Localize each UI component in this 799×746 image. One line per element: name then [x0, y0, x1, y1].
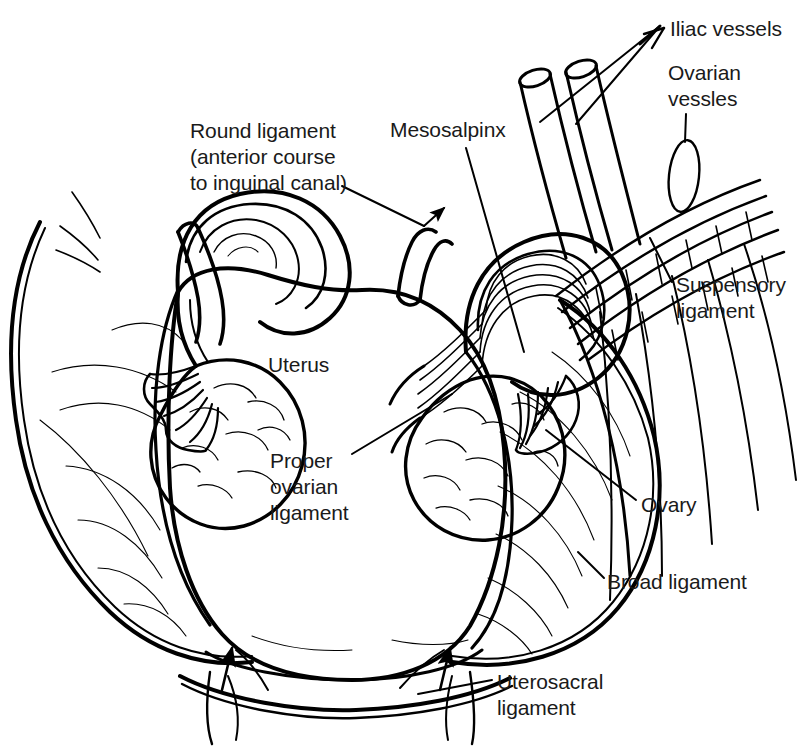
label-ovary: Ovary: [641, 492, 697, 518]
right-ovary: [406, 376, 565, 540]
left-fallopian-tube: [56, 191, 350, 451]
leader-proper-ovarian: [352, 394, 452, 454]
label-broad-ligament: Broad ligament: [607, 569, 747, 595]
leader-ovary: [546, 430, 636, 500]
leader-round: [342, 186, 424, 226]
label-ovarian-vessels: Ovarian vessles: [668, 60, 741, 112]
label-round-ligament: Round ligament (anterior course to ingui…: [190, 118, 347, 196]
leader-round-arrow: [424, 208, 444, 226]
label-iliac-vessels: Iliac vessels: [670, 16, 782, 42]
iliac-vessels: [517, 56, 640, 258]
label-suspensory-ligament: Suspensory ligament: [676, 272, 786, 324]
label-proper-ovarian-ligament: Proper ovarian ligament: [270, 448, 349, 526]
left-broad-ligament: [11, 222, 252, 663]
ovarian-vessel-marker: [665, 139, 702, 214]
label-uterus: Uterus: [268, 352, 329, 378]
leader-ovarian: [685, 114, 686, 142]
anatomical-diagram: Iliac vessels Ovarian vessles Round liga…: [0, 0, 799, 746]
label-uterosacral-ligament: Uterosacral ligament: [497, 669, 603, 721]
label-mesosalpinx: Mesosalpinx: [390, 117, 506, 143]
leader-broad: [578, 552, 604, 578]
